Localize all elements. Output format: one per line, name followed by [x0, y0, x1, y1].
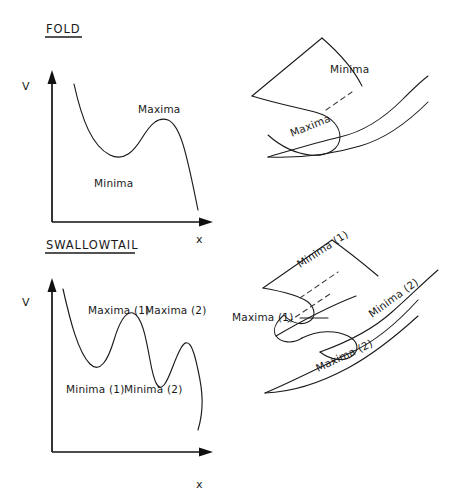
swallowtail-surface-hidden-edge-upper-dashed	[300, 272, 338, 298]
swallowtail-x-axis-arrowhead	[199, 448, 213, 457]
swallowtail-surface-minima-1-label: Minima (1)	[295, 228, 351, 270]
fold-heading-text: FOLD	[46, 22, 81, 36]
swallowtail-x-axis-label: x	[196, 478, 203, 491]
fold-x-axis-label: x	[196, 233, 203, 246]
fold-surface-maxima-label: Maxima	[288, 112, 332, 139]
swallowtail-maxima-2-label: Maxima (2)	[145, 304, 207, 316]
swallowtail-heading-text: SWALLOWTAIL	[46, 238, 138, 252]
fold-surface-upper-sheet-edge	[322, 38, 362, 86]
fold-x-axis-arrowhead	[199, 218, 213, 227]
fold-surface-lower-tail-upper	[268, 76, 428, 157]
fold-v-axis-label: V	[22, 80, 30, 93]
fold-minima-label: Minima	[94, 177, 133, 189]
fold-surface-diagram: Minima Maxima	[252, 38, 428, 157]
fold-potential-plot: V x Maxima Minima	[22, 70, 213, 246]
fold-maxima-label: Maxima	[138, 103, 181, 115]
swallowtail-potential-plot: V x Maxima (1) Maxima (2) Minima (1) Min…	[22, 278, 213, 491]
swallowtail-surface-maxima-1-label: Maxima (1)	[232, 311, 294, 323]
catastrophe-theory-figure: FOLD V x Maxima Minima Minima Maxima	[0, 0, 454, 501]
swallowtail-minima-1-label: Minima (1)	[66, 383, 124, 395]
swallowtail-v-axis-label: V	[22, 296, 30, 309]
swallowtail-surface-diagram: Minima (1) Minima (2) Maxima (2) Maxima …	[232, 228, 438, 393]
fold-v-axis-arrowhead	[48, 70, 57, 84]
swallowtail-minima-2-label: Minima (2)	[124, 383, 182, 395]
swallowtail-surface-upper-sheet-edge	[332, 240, 378, 276]
swallowtail-v-axis-arrowhead	[48, 278, 57, 292]
fold-surface-minima-label: Minima	[330, 63, 369, 75]
swallowtail-section-heading: SWALLOWTAIL	[45, 238, 138, 253]
swallowtail-surface-minima-2-label: Minima (2)	[366, 276, 420, 320]
fold-section-heading: FOLD	[45, 22, 82, 37]
fold-surface-upper-sheet-top	[252, 38, 322, 96]
swallowtail-maxima-1-label: Maxima (1)	[88, 304, 150, 316]
fold-surface-hidden-edge-dashed	[326, 92, 352, 110]
diagram-canvas: FOLD V x Maxima Minima Minima Maxima	[0, 0, 454, 501]
